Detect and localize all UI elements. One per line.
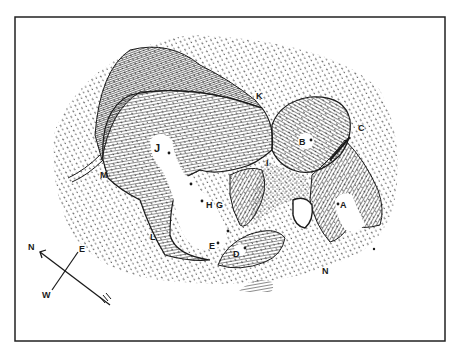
hachure-map: J K B C I M H G A L E D N N E W — [0, 0, 459, 358]
label-e: E — [209, 241, 215, 251]
label-j: J — [154, 142, 160, 154]
label-a: A — [340, 200, 347, 210]
crater — [293, 198, 312, 228]
label-b: B — [299, 137, 306, 147]
label-k: K — [256, 91, 263, 101]
label-l: L — [150, 232, 156, 242]
label-m: M — [100, 170, 108, 180]
compass-east: E — [79, 244, 85, 254]
label-i: I — [266, 158, 269, 168]
label-h: H — [206, 200, 213, 210]
compass-west: W — [42, 290, 51, 300]
label-n: N — [322, 266, 329, 276]
label-c: C — [358, 123, 365, 133]
compass-north: N — [28, 242, 35, 252]
label-d: D — [233, 249, 240, 259]
label-g: G — [216, 200, 223, 210]
